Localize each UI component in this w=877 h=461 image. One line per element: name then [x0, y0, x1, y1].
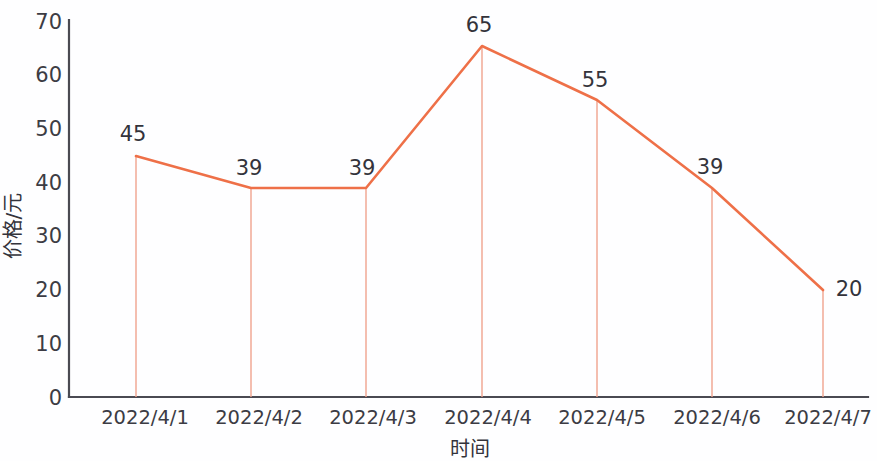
y-tick-label: 40: [35, 171, 62, 195]
x-tick-label: 2022/4/2: [215, 406, 303, 429]
data-labels: 45 39 39 65 55 39 20: [120, 13, 863, 301]
y-axis-ticks: 70 60 50 40 30 20 10 0: [35, 10, 62, 410]
y-axis-title: 价格/元: [1, 193, 25, 260]
y-tick-label: 50: [35, 117, 62, 141]
data-label: 45: [120, 122, 147, 146]
x-axis-ticks: 2022/4/1 2022/4/2 2022/4/3 2022/4/4 2022…: [101, 406, 872, 429]
x-tick-label: 2022/4/6: [673, 406, 761, 429]
x-tick-label: 2022/4/4: [444, 406, 532, 429]
x-axis-title: 时间: [450, 437, 490, 461]
y-tick-label: 30: [35, 224, 62, 248]
x-tick-label: 2022/4/1: [101, 406, 189, 429]
line-chart: 70 60 50 40 30 20 10 0 45 39 39 65 5: [0, 0, 877, 461]
y-tick-label: 0: [49, 386, 62, 410]
data-label: 39: [697, 155, 724, 179]
data-label: 39: [236, 156, 263, 180]
x-tick-label: 2022/4/3: [329, 406, 417, 429]
x-tick-label: 2022/4/7: [784, 406, 872, 429]
y-tick-label: 70: [35, 10, 62, 34]
y-tick-label: 10: [35, 332, 62, 356]
data-label: 20: [836, 277, 863, 301]
chart-canvas: 70 60 50 40 30 20 10 0 45 39 39 65 5: [0, 0, 877, 461]
y-tick-label: 60: [35, 63, 62, 87]
x-tick-label: 2022/4/5: [558, 406, 646, 429]
data-label: 55: [582, 68, 609, 92]
data-label: 39: [349, 156, 376, 180]
y-tick-label: 20: [35, 278, 62, 302]
drop-lines: [136, 46, 823, 397]
data-label: 65: [466, 13, 493, 37]
